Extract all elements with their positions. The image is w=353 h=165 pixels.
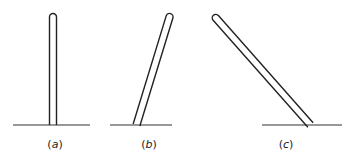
panel-label-a: (a) [47, 138, 62, 151]
rod-a [50, 14, 57, 126]
panel-letter-a: a [52, 138, 59, 151]
panel-letter-b: b [146, 138, 153, 151]
rod-b [133, 13, 174, 126]
panel-label-c: (c) [279, 138, 294, 151]
panel-label-b: (b) [141, 138, 157, 151]
panel-c [211, 13, 342, 127]
rod-c [211, 13, 313, 127]
panel-letter-c: c [283, 138, 289, 151]
panel-b [110, 13, 174, 126]
panel-a [13, 14, 90, 126]
